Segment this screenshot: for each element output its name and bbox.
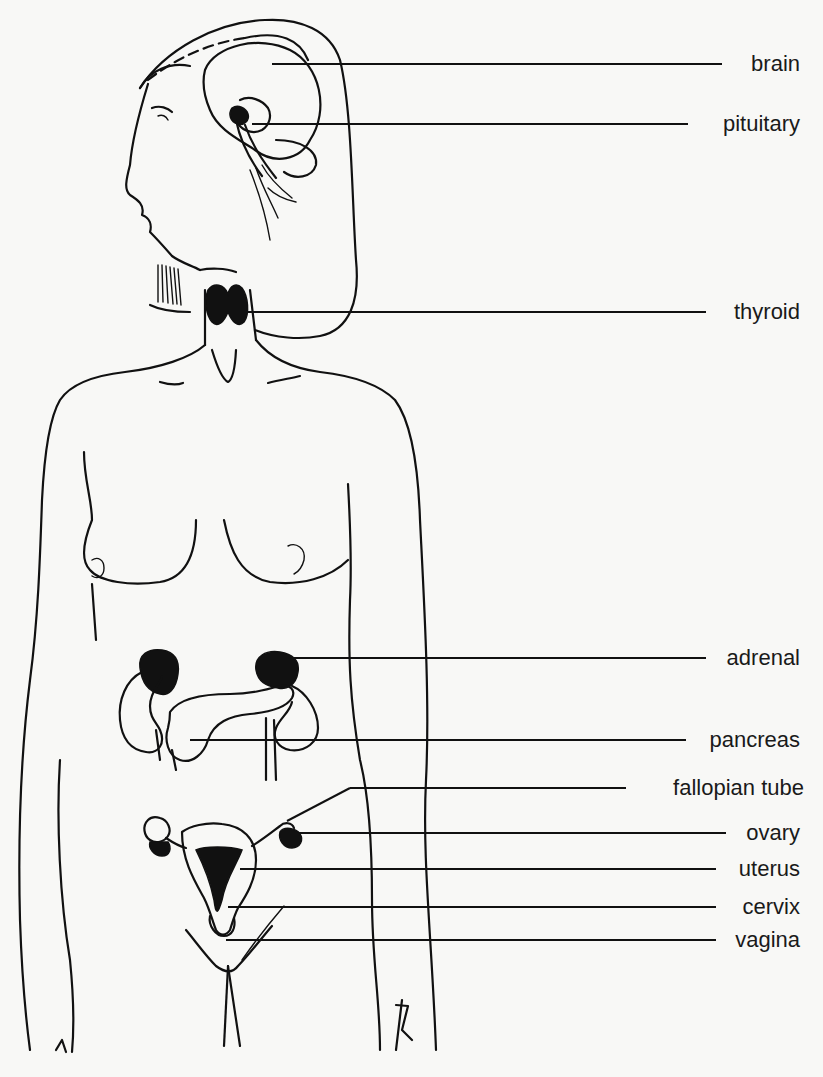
label-thyroid: thyroid xyxy=(734,301,800,323)
leader-lines xyxy=(190,64,726,940)
anatomy-figure xyxy=(0,0,823,1077)
label-pancreas: pancreas xyxy=(709,729,800,751)
label-adrenal: adrenal xyxy=(727,647,800,669)
label-vagina: vagina xyxy=(735,929,800,951)
label-uterus: uterus xyxy=(739,858,800,880)
torso-outline xyxy=(19,340,436,1052)
reproductive-organs xyxy=(144,817,301,1046)
thyroid-organ xyxy=(205,285,256,382)
label-fallopian-tube: fallopian tube xyxy=(673,777,804,799)
leader-line-fallopian-tube xyxy=(287,788,350,821)
abdominal-organs xyxy=(120,650,318,780)
label-pituitary: pituitary xyxy=(723,113,800,135)
label-ovary: ovary xyxy=(746,822,800,844)
label-cervix: cervix xyxy=(743,896,800,918)
label-brain: brain xyxy=(751,53,800,75)
